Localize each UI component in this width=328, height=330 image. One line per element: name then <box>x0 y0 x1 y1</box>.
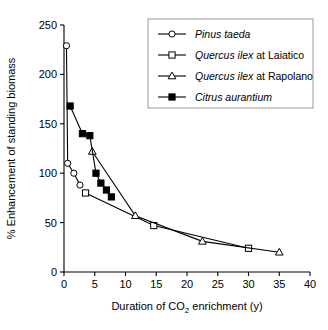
y-axis-tick-label: 100 <box>39 167 57 179</box>
y-axis-tick-label: 150 <box>39 118 57 130</box>
y-axis-tick-label: 250 <box>39 19 57 31</box>
data-point <box>71 170 77 176</box>
chart-canvas: 0501001502002500510152025303540 Duration… <box>0 0 328 330</box>
legend-label: Quercus ilex at Rapolano <box>195 70 313 82</box>
x-axis-tick-label: 10 <box>119 278 131 290</box>
data-point <box>79 131 85 137</box>
legend-marker-icon <box>169 52 175 58</box>
series-line <box>86 193 249 248</box>
x-axis-tick-label: 15 <box>150 278 162 290</box>
x-axis-tick-label: 35 <box>273 278 285 290</box>
chart-legend: Pinus taedaQuercus ilex at LaiaticoQuerc… <box>148 19 313 108</box>
data-point <box>108 194 114 200</box>
x-axis-title: Duration of CO2 enrichment (y) <box>111 300 262 315</box>
legend-marker-icon <box>169 31 175 37</box>
data-point <box>77 182 83 188</box>
series-line <box>92 151 279 252</box>
y-axis-tick-label: 50 <box>45 217 57 229</box>
x-axis-tick-label: 25 <box>212 278 224 290</box>
y-axis-title: % Enhancement of standing biomass <box>5 57 17 239</box>
figure-container: 0501001502002500510152025303540 Duration… <box>0 0 328 330</box>
series-0 <box>63 43 83 189</box>
data-point <box>93 170 99 176</box>
x-axis-tick-label: 0 <box>61 278 67 290</box>
series-2 <box>88 148 283 255</box>
legend-label: Pinus taeda <box>195 28 251 40</box>
data-point <box>63 43 69 49</box>
y-axis-tick-label: 0 <box>51 266 57 278</box>
x-axis-tick-label: 5 <box>92 278 98 290</box>
data-point <box>65 160 71 166</box>
data-point <box>98 180 104 186</box>
x-axis-tick-label: 20 <box>181 278 193 290</box>
legend-marker-icon <box>169 94 175 100</box>
data-point <box>103 187 109 193</box>
data-point <box>87 133 93 139</box>
data-point <box>67 103 73 109</box>
y-axis-tick-label: 200 <box>39 68 57 80</box>
x-axis-tick-label: 30 <box>242 278 254 290</box>
legend-label: Quercus ilex at Laiatico <box>195 49 304 61</box>
x-axis-tick-label: 40 <box>304 278 316 290</box>
data-point <box>82 190 88 196</box>
legend-label: Citrus aurantium <box>195 91 272 103</box>
